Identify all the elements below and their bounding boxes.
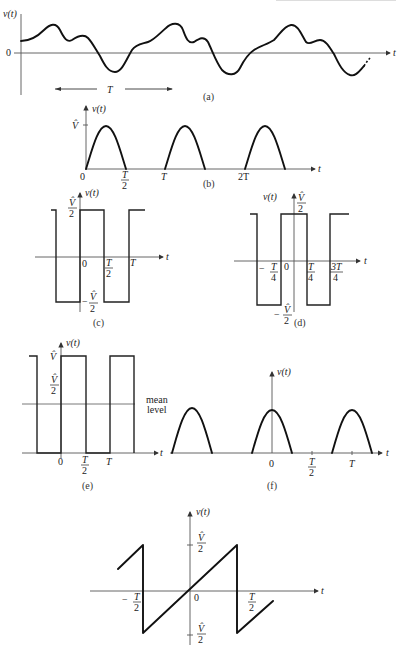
svg-text:2: 2 (298, 203, 303, 214)
svg-text:T: T (134, 591, 141, 602)
svg-text:V̂: V̂ (298, 191, 306, 203)
panel-e-tick-0: 0 (58, 456, 63, 467)
panel-g-ylabel: v(t) (196, 506, 211, 518)
panel-b-xlabel: t (318, 163, 321, 174)
svg-text:T: T (308, 261, 315, 272)
svg-text:2: 2 (198, 634, 203, 645)
panel-e-peak-label: V̂ (50, 350, 58, 362)
svg-text:3T: 3T (330, 261, 343, 272)
panel-g-low-label: V̂ 2 (197, 622, 206, 645)
svg-text:T: T (122, 169, 129, 180)
arrow-right-icon (167, 87, 173, 91)
panel-e-tick-T-over-2: T 2 (81, 454, 89, 476)
svg-text:4: 4 (333, 272, 338, 283)
panel-c-tick-T: T (130, 257, 137, 268)
svg-text:−: − (259, 263, 265, 274)
panel-g-high-label: V̂ 2 (197, 531, 206, 554)
panel-g-tick-0: 0 (194, 592, 199, 603)
panel-f-xlabel: t (386, 447, 389, 458)
waveform-figure: v(t) 0 t T (a) v(t) V̂ t 0 T 2 T 2T (b) (0, 0, 402, 646)
panel-c-tick-T-over-2: T 2 (105, 257, 113, 279)
panel-a-zero-label: 0 (6, 47, 11, 58)
panel-g-tick-T-over-2: T 2 (248, 591, 256, 613)
svg-text:4: 4 (271, 272, 276, 283)
panel-d-xlabel: t (364, 255, 367, 266)
panel-d-tick-T-over-4: T 4 (307, 261, 315, 283)
panel-a-period-label: T (107, 84, 114, 95)
panel-a-caption: (a) (203, 91, 214, 103)
arrow-left-icon (55, 87, 61, 91)
panel-g-sawtooth (118, 545, 273, 633)
panel-a: v(t) 0 t T (a) (3, 8, 396, 103)
panel-f-tick-T: T (349, 458, 356, 469)
panel-c-square-wave (51, 210, 145, 302)
panel-e-half-label: V̂ 2 (50, 373, 59, 396)
panel-a-ylabel: v(t) (3, 8, 18, 20)
panel-f-hump-3 (332, 410, 372, 453)
panel-e: v(t) t V̂ V̂ 2 mean level 0 T 2 T (e) (22, 337, 168, 492)
panel-d-ylabel: v(t) (263, 191, 278, 203)
panel-e-mean-label-line2: level (147, 404, 167, 415)
panel-c-tick-0: 0 (82, 258, 87, 269)
svg-text:T: T (271, 261, 278, 272)
panel-e-square-wave (29, 356, 134, 453)
panel-e-tick-T: T (106, 456, 113, 467)
svg-text:−: − (82, 296, 88, 307)
panel-b-tick-2T: 2T (238, 171, 249, 182)
svg-text:2: 2 (134, 602, 139, 613)
panel-e-caption: (e) (82, 480, 93, 492)
svg-text:2: 2 (69, 208, 74, 219)
svg-text:T: T (82, 454, 89, 465)
panel-d-high-label: V̂ 2 (297, 191, 306, 214)
panel-b: v(t) V̂ t 0 T 2 T 2T (b) (72, 103, 321, 191)
panel-e-xlabel: t (160, 447, 163, 458)
svg-text:4: 4 (308, 272, 313, 283)
svg-text:2: 2 (309, 467, 314, 478)
svg-text:2: 2 (90, 303, 95, 314)
panel-f-hump-1 (172, 408, 212, 453)
panel-g-tick-neg-T-over-2: − T 2 (122, 591, 141, 613)
panel-a-xlabel: t (393, 47, 396, 58)
panel-b-tick-T: T (161, 171, 168, 182)
svg-text:2: 2 (122, 180, 127, 191)
panel-d-tick-0: 0 (284, 261, 289, 272)
panel-c-ylabel: v(t) (85, 187, 100, 199)
panel-d-tick-3T-over-4: 3T 4 (330, 261, 343, 283)
svg-text:V̂: V̂ (284, 303, 292, 315)
panel-a-waveform-continuation (364, 58, 370, 66)
panel-d: v(t) t V̂ 2 − T 4 0 T 4 3T 4 − V̂ 2 (234, 191, 367, 329)
panel-b-hump-3 (245, 126, 285, 169)
panel-g: v(t) t V̂ 2 − T 2 0 T 2 V̂ 2 (90, 506, 324, 645)
panel-f: v(t) t 0 T 2 T (f) (170, 366, 389, 492)
panel-b-hump-2 (165, 126, 205, 169)
svg-text:−: − (122, 594, 128, 605)
panel-b-tick-T-over-2: T 2 (121, 169, 129, 191)
svg-text:V̂: V̂ (90, 290, 98, 302)
panel-a-waveform (21, 24, 364, 76)
panel-d-low-label: − V̂ 2 (274, 303, 292, 326)
svg-text:2: 2 (82, 465, 87, 476)
panel-f-caption: (f) (267, 480, 277, 492)
svg-text:2: 2 (106, 268, 111, 279)
panel-c-high-label: V̂ 2 (68, 196, 77, 219)
panel-b-hump-1 (86, 126, 126, 169)
svg-text:T: T (106, 257, 113, 268)
panel-c-xlabel: t (166, 251, 169, 262)
panel-b-peak-label: V̂ (72, 119, 80, 131)
panel-b-ylabel: v(t) (92, 103, 107, 115)
svg-text:−: − (274, 309, 280, 320)
panel-f-tick-0: 0 (269, 458, 274, 469)
panel-f-ylabel: v(t) (277, 366, 292, 378)
svg-text:V̂: V̂ (198, 531, 206, 543)
panel-g-xlabel: t (321, 585, 324, 596)
panel-c-caption: (c) (93, 317, 104, 329)
svg-text:V̂: V̂ (51, 373, 59, 385)
svg-text:2: 2 (284, 315, 289, 326)
panel-d-tick-neg-T-over-4: − T 4 (259, 261, 278, 283)
panel-f-tick-T-over-2: T 2 (308, 456, 316, 478)
svg-text:T: T (309, 456, 316, 467)
svg-text:2: 2 (51, 385, 56, 396)
panel-c-low-label: − V̂ 2 (82, 290, 98, 314)
panel-c: v(t) t V̂ 2 0 T 2 T − V̂ 2 (c) (35, 187, 169, 329)
svg-text:2: 2 (249, 602, 254, 613)
